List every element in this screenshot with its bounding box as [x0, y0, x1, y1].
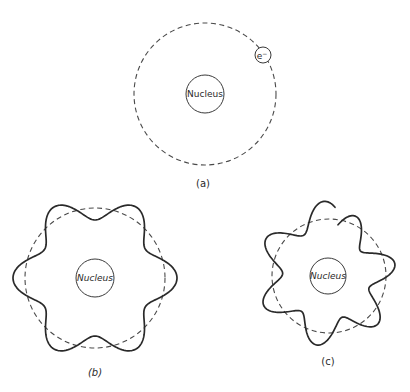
- atom-orbit-figure: Nucleus e− (a) Nucleus (b) Nucleus (c): [0, 0, 410, 392]
- panel-caption-a: (a): [196, 178, 210, 189]
- nucleus-label: Nucleus: [77, 273, 113, 283]
- panel-caption-c: (c): [321, 356, 334, 367]
- nucleus-label: Nucleus: [310, 271, 346, 281]
- panel-caption-b: (b): [88, 367, 102, 378]
- nucleus-label: Nucleus: [187, 89, 223, 99]
- panel-c-nonclosing-wave: Nucleus (c): [263, 201, 395, 366]
- panel-b-standing-wave: Nucleus (b): [13, 205, 177, 377]
- panel-a-bohr-orbit: Nucleus e− (a): [134, 23, 276, 189]
